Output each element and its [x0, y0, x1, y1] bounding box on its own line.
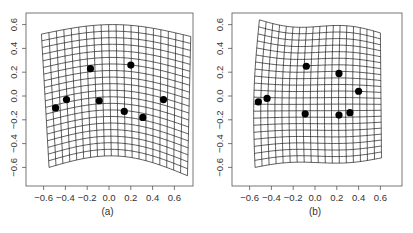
grid-line-vertical [346, 26, 347, 163]
landmark-point [255, 98, 262, 105]
grid-line-vertical [296, 27, 300, 162]
grid-line-vertical [353, 27, 354, 163]
figure: −0.6−0.4−0.20.00.20.40.6 −0.6−0.4−0.20.0… [0, 0, 413, 233]
panel-a: −0.6−0.4−0.20.00.20.40.6 −0.6−0.4−0.20.0… [8, 13, 193, 217]
y-tick-label: −0.6 [8, 158, 19, 177]
x-tick-label: −0.2 [78, 192, 97, 203]
y-tick-label: −0.4 [8, 134, 19, 153]
grid-line-vertical [380, 33, 381, 158]
landmark-point [52, 104, 59, 111]
y-axis: −0.6−0.4−0.20.00.20.40.6 [8, 18, 26, 177]
landmark-point [87, 65, 94, 72]
y-tick-label: −0.6 [214, 158, 225, 177]
x-tick-label: −0.6 [34, 192, 53, 203]
landmark-point [121, 108, 128, 115]
x-tick-label: 0.0 [308, 192, 321, 203]
y-tick-label: 0.6 [8, 18, 19, 31]
x-tick-label: 0.0 [102, 192, 115, 203]
x-tick-label: 0.6 [374, 192, 387, 203]
grid-line-vertical [282, 26, 286, 163]
y-tick-label: 0.4 [214, 42, 225, 55]
x-tick-label: 0.4 [146, 192, 159, 203]
landmark-point [160, 96, 167, 103]
grid-line-vertical [332, 26, 334, 164]
landmark-point [346, 109, 353, 116]
y-tick-label: 0.2 [214, 66, 225, 79]
x-axis: −0.6−0.4−0.20.00.20.40.6 [240, 186, 387, 203]
y-tick-label: −0.2 [8, 110, 19, 129]
grid-line-vertical [374, 31, 375, 159]
y-tick-label: 0.0 [214, 89, 225, 102]
x-tick-label: 0.4 [352, 192, 365, 203]
landmark-point [335, 111, 342, 118]
y-tick-label: 0.4 [8, 42, 19, 55]
grid-line-vertical [289, 27, 293, 162]
y-tick-label: 0.0 [8, 89, 19, 102]
grid-line-horizontal [254, 110, 381, 111]
landmark-point [127, 61, 134, 68]
landmark-point [335, 70, 342, 77]
landmark-point [263, 95, 270, 102]
x-tick-label: 0.6 [168, 192, 181, 203]
landmark-point [63, 96, 70, 103]
grid-line-vertical [303, 27, 306, 162]
grid-line-vertical [268, 24, 273, 165]
grid-line-vertical [339, 25, 340, 163]
panel-b: −0.6−0.4−0.20.00.20.40.6 −0.6−0.4−0.20.0… [214, 13, 402, 217]
landmark-point [355, 88, 362, 95]
y-axis: −0.6−0.4−0.20.00.20.40.6 [214, 18, 232, 177]
y-tick-label: −0.2 [214, 110, 225, 129]
landmark-point [302, 110, 309, 117]
grid-line-vertical [317, 26, 320, 162]
grid-line-vertical [261, 22, 266, 166]
landmark-point [139, 114, 146, 121]
x-tick-label: −0.6 [240, 192, 259, 203]
y-tick-label: −0.4 [214, 134, 225, 153]
x-tick-label: 0.2 [330, 192, 343, 203]
x-tick-label: −0.4 [262, 192, 281, 203]
grid-line-vertical [254, 20, 260, 168]
grid-line-vertical [310, 27, 313, 162]
deformation-grid [254, 20, 382, 168]
x-axis: −0.6−0.4−0.20.00.20.40.6 [34, 186, 181, 203]
landmark-point [303, 63, 310, 70]
x-tick-label: 0.2 [124, 192, 137, 203]
panel-label: (a) [101, 206, 113, 217]
grid-line-vertical [367, 29, 368, 160]
x-tick-label: −0.4 [56, 192, 75, 203]
grid-line-vertical [275, 25, 280, 164]
y-tick-label: 0.6 [214, 18, 225, 31]
landmark-point [96, 97, 103, 104]
y-tick-label: 0.2 [8, 66, 19, 79]
panel-label: (b) [309, 206, 321, 217]
x-tick-label: −0.2 [284, 192, 303, 203]
grid-line-vertical [324, 26, 326, 163]
